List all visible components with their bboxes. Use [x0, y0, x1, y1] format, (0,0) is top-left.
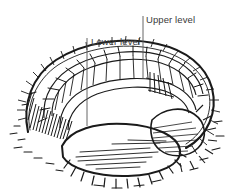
upper-tier-arc — [44, 52, 203, 118]
annotation-leader-lines — [87, 16, 143, 126]
amphitheatre-illustration — [0, 0, 241, 193]
lower-tier-arc — [60, 78, 196, 130]
label-lower-level: Lower level — [91, 36, 140, 47]
upper-tier-seat-verticals — [55, 55, 193, 110]
label-upper-level: Upper level — [146, 14, 195, 25]
